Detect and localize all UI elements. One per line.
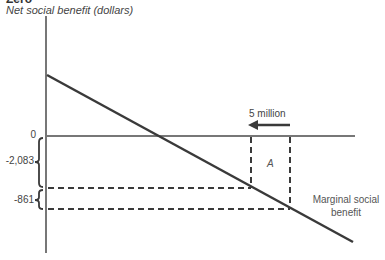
tick-zero: 0 xyxy=(0,129,36,140)
shift-label: 5 million xyxy=(249,108,286,119)
shift-arrow-head xyxy=(248,120,258,130)
area-label: A xyxy=(267,158,274,169)
tick-lower-value: -861 xyxy=(0,194,34,205)
tick-upper-value: -2,083 xyxy=(0,155,34,166)
chart-canvas xyxy=(0,0,385,260)
brace-upper xyxy=(35,138,43,187)
brace-lower xyxy=(35,190,43,209)
curve-label: Marginal social benefit xyxy=(306,193,385,219)
curve-label-line2: benefit xyxy=(306,206,385,219)
curve-label-line1: Marginal social xyxy=(306,193,385,206)
